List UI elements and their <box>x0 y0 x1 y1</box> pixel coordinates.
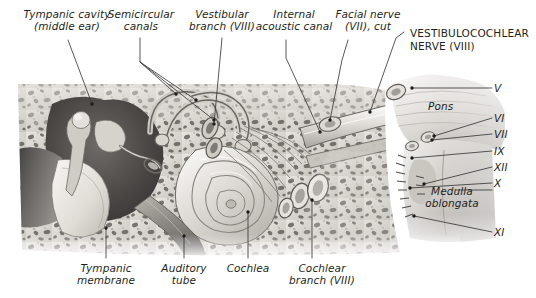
nerve-numeral-XI: XI <box>494 226 505 238</box>
nerve-numeral-X: X <box>494 177 501 189</box>
label-cranial-nerve-XI: XI <box>494 226 505 238</box>
label-cranial-nerve-VI: VI <box>494 112 504 124</box>
label-tympanic-membrane: Tympanic membrane <box>66 262 146 286</box>
nerve-numeral-V: V <box>494 82 501 94</box>
label-auditory-tube: Auditory tube <box>148 262 220 286</box>
label-vestibulocochlear-nerve: VESTIBULOCOCHLEAR NERVE (VIII) <box>410 27 536 52</box>
anatomy-figure: Tympanic cavity (middle ear) Semicircula… <box>0 0 536 298</box>
nerve-numeral-IX: IX <box>494 145 505 157</box>
label-cranial-nerve-VII: VII <box>494 128 508 140</box>
label-cranial-nerve-V: V <box>494 82 501 94</box>
label-pons: Pons <box>428 100 476 112</box>
nerve-numeral-VII: VII <box>494 128 508 140</box>
label-medulla-oblongata: Medulla oblongata <box>414 185 490 209</box>
label-cranial-nerve-X: X <box>494 177 501 189</box>
label-semicircular-canals: Semicircular canals <box>104 8 178 32</box>
label-cochlear-branch: Cochlear branch (VIII) <box>276 262 368 286</box>
label-cochlea: Cochlea <box>216 262 280 274</box>
label-cranial-nerve-XII: XII <box>494 161 508 173</box>
nerve-numeral-XII: XII <box>494 161 508 173</box>
bottom-fade <box>14 234 460 260</box>
label-facial-nerve: Facial nerve (VII), cut <box>326 8 410 32</box>
label-cranial-nerve-IX: IX <box>494 145 505 157</box>
nerve-numeral-VI: VI <box>494 112 504 124</box>
